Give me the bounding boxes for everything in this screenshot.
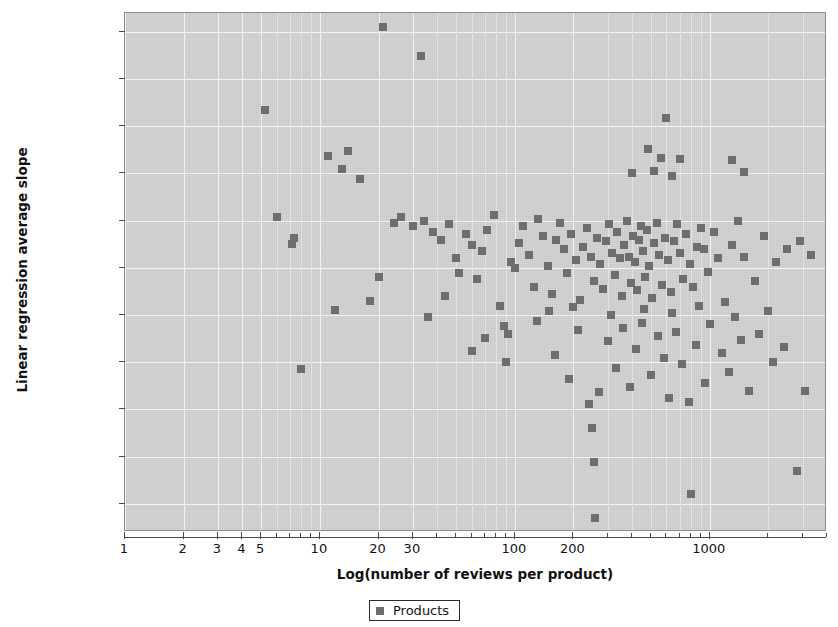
data-point — [664, 256, 672, 264]
x-axis-tick-minor — [631, 533, 632, 537]
data-point — [710, 228, 718, 236]
data-point — [796, 237, 804, 245]
data-point — [574, 326, 582, 334]
data-point — [613, 228, 621, 236]
data-point — [552, 236, 560, 244]
data-point — [665, 394, 673, 402]
x-axis-tick-label: 10 — [311, 541, 328, 556]
data-point — [633, 286, 641, 294]
plot-texture — [125, 13, 825, 530]
data-point — [511, 264, 519, 272]
data-point — [751, 277, 759, 285]
gridline-horizontal — [125, 268, 825, 269]
data-point — [676, 249, 684, 257]
data-point — [780, 343, 788, 351]
x-axis-tick-major — [260, 532, 261, 539]
data-point — [632, 345, 640, 353]
x-axis-tick-minor — [650, 533, 651, 537]
data-point — [565, 375, 573, 383]
x-axis-tick-major — [183, 532, 184, 539]
data-point — [641, 273, 649, 281]
x-axis-tick-minor — [700, 533, 701, 537]
data-point — [588, 424, 596, 432]
gridline-vertical — [218, 13, 219, 530]
x-axis-tick-minor — [505, 533, 506, 537]
data-point — [635, 236, 643, 244]
y-axis-tick — [119, 267, 125, 268]
x-axis-tick-minor — [289, 533, 290, 537]
data-point — [591, 514, 599, 522]
data-point — [590, 458, 598, 466]
data-point — [660, 354, 668, 362]
x-axis-title: Log(number of reviews per product) — [124, 566, 826, 582]
data-point — [661, 234, 669, 242]
gridline-vertical — [242, 13, 243, 530]
data-point — [585, 400, 593, 408]
data-point — [596, 260, 604, 268]
x-axis-tick-label: 5 — [256, 541, 264, 556]
data-point — [338, 165, 346, 173]
data-point — [695, 302, 703, 310]
data-point — [593, 234, 601, 242]
data-point — [560, 245, 568, 253]
chart-title — [200, 0, 630, 2]
legend-label: Products — [393, 603, 449, 618]
data-point — [623, 217, 631, 225]
data-point — [324, 152, 332, 160]
data-point — [734, 217, 742, 225]
x-axis-tick-major — [709, 532, 710, 539]
data-point — [692, 341, 700, 349]
x-axis-tick-label: 100 — [501, 541, 526, 556]
y-axis-title: Linear regression average slope — [14, 80, 30, 460]
legend-marker-icon — [376, 607, 384, 615]
data-point — [502, 358, 510, 366]
data-point — [490, 211, 498, 219]
gridline-vertical-minor — [803, 13, 804, 530]
data-point — [725, 368, 733, 376]
x-axis-tick-minor — [300, 533, 301, 537]
x-axis-tick-major — [412, 532, 413, 539]
data-point — [533, 317, 541, 325]
data-point — [670, 237, 678, 245]
data-point — [745, 387, 753, 395]
gridline-vertical-minor — [632, 13, 633, 530]
data-point — [655, 251, 663, 259]
data-point — [626, 383, 634, 391]
data-point — [701, 379, 709, 387]
gridline-vertical-minor — [301, 13, 302, 530]
data-point — [473, 275, 481, 283]
gridline-vertical-minor — [485, 13, 486, 530]
data-point — [478, 247, 486, 255]
data-point — [640, 305, 648, 313]
x-axis-tick-minor — [802, 533, 803, 537]
data-point — [429, 228, 437, 236]
data-point — [648, 294, 656, 302]
data-point — [261, 106, 269, 114]
data-point — [483, 226, 491, 234]
data-point — [409, 222, 417, 230]
x-axis-tick-minor — [690, 533, 691, 537]
gridline-vertical-minor — [701, 13, 702, 530]
x-axis-tick-minor — [276, 533, 277, 537]
data-point — [650, 167, 658, 175]
data-point — [658, 281, 666, 289]
data-point — [563, 269, 571, 277]
gridline-horizontal — [125, 32, 825, 33]
data-point — [599, 285, 607, 293]
data-point — [602, 237, 610, 245]
data-point — [569, 303, 577, 311]
data-point — [644, 145, 652, 153]
x-axis-tick-label: 20 — [369, 541, 386, 556]
data-point — [679, 275, 687, 283]
data-point — [587, 253, 595, 261]
x-axis-line — [124, 537, 826, 538]
gridline-horizontal — [125, 409, 825, 410]
data-point — [481, 334, 489, 342]
y-axis-tick — [119, 408, 125, 409]
data-point — [654, 332, 662, 340]
data-point — [740, 253, 748, 261]
x-axis-tick-major — [241, 532, 242, 539]
gridline-vertical — [413, 13, 414, 530]
x-axis-tick-label: 1000 — [692, 541, 725, 556]
chart-legend[interactable]: Products — [369, 600, 460, 621]
